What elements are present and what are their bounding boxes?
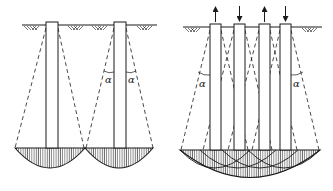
right-panel: α α bbox=[180, 6, 322, 178]
ground-hatch bbox=[24, 26, 152, 30]
pile-2 bbox=[114, 22, 126, 148]
pile-2 bbox=[234, 24, 245, 150]
angle-label-alpha: α bbox=[105, 74, 112, 85]
angle-arc-right bbox=[126, 71, 136, 73]
pile-1 bbox=[46, 22, 58, 148]
pressure-bulb-left bbox=[15, 148, 85, 168]
pile-1 bbox=[210, 24, 221, 150]
load-arrows bbox=[216, 6, 286, 22]
angle-label-alpha: α bbox=[199, 78, 206, 89]
group-pressure-bulb bbox=[180, 150, 320, 178]
pile-diagram: α α bbox=[0, 0, 333, 191]
pile-3 bbox=[259, 24, 270, 150]
angle-label-alpha: α bbox=[293, 78, 300, 89]
stress-spread-lines bbox=[181, 30, 319, 150]
stress-spread-lines bbox=[15, 28, 153, 148]
left-panel: α α bbox=[15, 22, 157, 168]
angle-label-alpha: α bbox=[128, 74, 135, 85]
angle-arc-left bbox=[104, 71, 114, 73]
pile-4 bbox=[280, 24, 291, 150]
pressure-bulb-right bbox=[85, 148, 153, 168]
ground-hatch bbox=[185, 28, 317, 32]
